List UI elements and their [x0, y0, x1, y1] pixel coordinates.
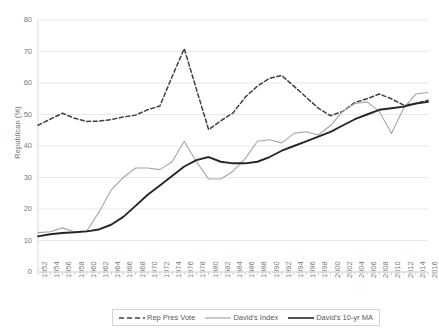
legend-item-rep-pres-vote: Rep Pres Vote [119, 313, 195, 322]
legend-item-davids-10yr-ma: David's 10-yr MA [288, 313, 373, 322]
axis-lines [38, 20, 428, 275]
legend-item-davids-index: David's Index [205, 313, 278, 322]
legend-swatch-dark-solid-icon [288, 314, 314, 322]
series-layer [38, 49, 428, 237]
legend: Rep Pres Vote David's Index David's 10-y… [112, 309, 380, 326]
legend-swatch-light-solid-icon [205, 314, 231, 322]
gridlines [38, 20, 428, 272]
legend-label-davids-10yr-ma: David's 10-yr MA [316, 313, 373, 322]
legend-label-davids-index: David's Index [233, 313, 278, 322]
legend-swatch-dashed-icon [119, 314, 145, 322]
x-tick-label: 2016 [431, 261, 439, 278]
series-line-rep-pres-vote [38, 49, 428, 130]
legend-label-rep-pres-vote: Rep Pres Vote [147, 313, 195, 322]
